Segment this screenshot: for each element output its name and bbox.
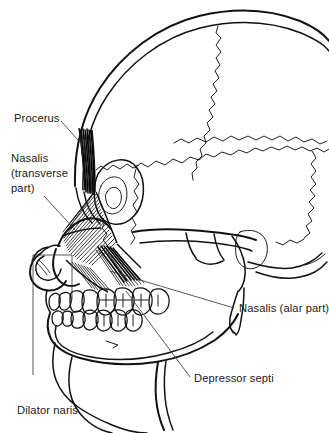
label-depressor-septi: Depressor septi (194, 372, 274, 384)
nasal-muscles-figure: Procerus Nasalis (transverse part) Nasal… (0, 0, 329, 433)
label-procerus: Procerus (14, 112, 60, 124)
label-nasalis-transverse-line2: (transverse (11, 167, 68, 179)
label-dilator-naris: Dilator naris (17, 404, 78, 416)
label-nasalis-alar: Nasalis (alar part) (239, 302, 329, 314)
skull-lateral-illustration: Procerus Nasalis (transverse part) Nasal… (0, 0, 329, 433)
label-nasalis-transverse-line3: part) (11, 182, 35, 194)
label-nasalis-transverse-line1: Nasalis (11, 152, 49, 164)
